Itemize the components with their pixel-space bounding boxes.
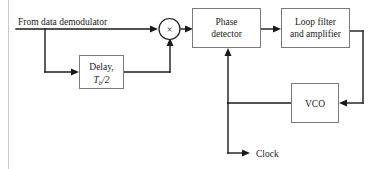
block-delay-label-line1: Delay, bbox=[89, 62, 113, 72]
diagram-canvas: Delay, Tb/2 × Phase detector Loop filter… bbox=[0, 0, 379, 169]
block-phase-detector[interactable] bbox=[193, 9, 261, 48]
block-vco-label: VCO bbox=[305, 99, 325, 109]
arrow-into-phase-detector-icon bbox=[185, 26, 193, 33]
block-diagram: Delay, Tb/2 × Phase detector Loop filter… bbox=[0, 0, 379, 169]
block-loop-filter-label-line2: and amplifier bbox=[290, 29, 342, 39]
multiplier-glyph: × bbox=[167, 24, 173, 35]
arrow-into-loop-filter-icon bbox=[273, 26, 281, 33]
input-source-label: From data demodulator bbox=[18, 17, 108, 27]
delay-symbol-rest: /2 bbox=[101, 75, 110, 85]
arrow-into-delay-icon bbox=[71, 69, 79, 76]
arrow-input-multiplier-icon bbox=[150, 26, 158, 33]
clock-output-label: Clock bbox=[256, 149, 279, 159]
arrow-clock-icon bbox=[242, 150, 250, 157]
arrow-phase-detector-feedback-icon bbox=[225, 48, 232, 56]
arrow-into-vco-icon bbox=[339, 100, 347, 107]
block-delay-label-symbol: Tb/2 bbox=[94, 75, 110, 86]
block-phase-detector-label-line1: Phase bbox=[215, 17, 237, 27]
block-loop-filter[interactable] bbox=[282, 9, 350, 48]
block-phase-detector-label-line2: detector bbox=[211, 29, 242, 39]
block-loop-filter-label-line1: Loop filter bbox=[295, 17, 337, 27]
